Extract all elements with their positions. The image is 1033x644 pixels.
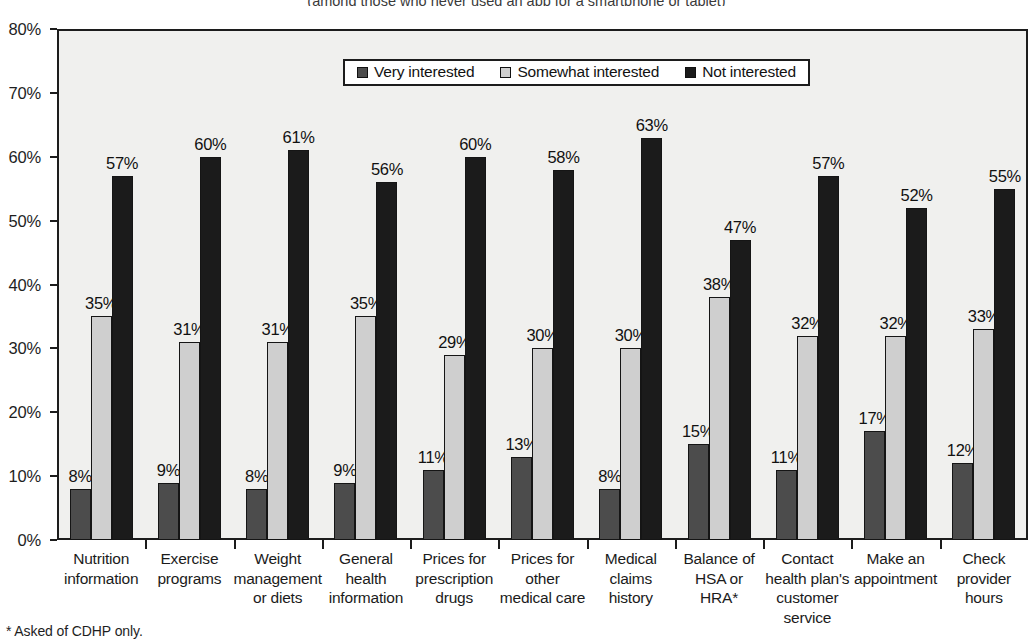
bar[interactable] xyxy=(776,470,797,540)
y-axis-tickmark xyxy=(50,28,57,30)
bar-value-label: 58% xyxy=(540,148,588,167)
legend-item-very-interested[interactable]: Very interested xyxy=(357,63,474,81)
y-axis-tickmark xyxy=(50,92,57,94)
x-axis-category-label: Make anappointment xyxy=(847,549,943,588)
bar[interactable] xyxy=(112,176,133,540)
x-axis-category-label: Weightmanagementor diets xyxy=(230,549,326,608)
bar-value-label: 63% xyxy=(628,116,676,135)
x-axis-label-line: Prices for xyxy=(406,549,502,569)
bar[interactable] xyxy=(288,150,309,540)
x-axis-label-line: history xyxy=(583,588,679,608)
x-axis-tickmark xyxy=(675,540,677,549)
bar[interactable] xyxy=(423,470,444,540)
x-axis-label-line: Weight xyxy=(230,549,326,569)
bar[interactable] xyxy=(709,297,730,540)
x-axis-label-line: Balance of xyxy=(671,549,767,569)
bar[interactable] xyxy=(599,489,620,540)
bar-value-label: 55% xyxy=(981,167,1029,186)
x-axis-tickmark xyxy=(410,540,412,549)
chart-legend: Very interested Somewhat interested Not … xyxy=(343,59,810,86)
y-axis-tickmark xyxy=(50,411,57,413)
bar-value-label: 56% xyxy=(363,160,411,179)
x-axis-label-line: health plan's xyxy=(759,569,855,589)
bar[interactable] xyxy=(532,348,553,540)
bar[interactable] xyxy=(688,444,709,540)
x-axis-tickmark xyxy=(587,540,589,549)
bar-value-label: 60% xyxy=(186,135,234,154)
y-axis-tickmark xyxy=(50,347,57,349)
bar[interactable] xyxy=(818,176,839,540)
bar[interactable] xyxy=(334,483,355,540)
x-axis-label-line: Check xyxy=(936,549,1032,569)
x-axis-label-line: customer xyxy=(759,588,855,608)
bar[interactable] xyxy=(553,170,574,540)
bar-group: 8%31%61% xyxy=(246,29,309,540)
bar[interactable] xyxy=(864,431,885,540)
x-axis-label-line: other xyxy=(494,569,590,589)
bar[interactable] xyxy=(179,342,200,540)
bar[interactable] xyxy=(885,336,906,540)
bar[interactable] xyxy=(730,240,751,540)
bar[interactable] xyxy=(994,189,1015,540)
bar[interactable] xyxy=(200,157,221,540)
chart-subtitle: (among those who never used an app for a… xyxy=(0,0,1033,6)
x-axis-category-label: Balance ofHSA orHRA* xyxy=(671,549,767,608)
y-axis-tick-label: 20% xyxy=(9,403,41,422)
y-axis-tick-label: 10% xyxy=(9,467,41,486)
x-axis-tickmark xyxy=(763,540,765,549)
x-axis-label-line: Make an xyxy=(847,549,943,569)
legend-label: Somewhat interested xyxy=(517,63,659,81)
x-axis-category-label: Generalhealthinformation xyxy=(318,549,414,608)
x-axis-label-line: Medical xyxy=(583,549,679,569)
x-axis-label-line: General xyxy=(318,549,414,569)
bar-group: 8%35%57% xyxy=(70,29,133,540)
bar-group: 11%32%57% xyxy=(776,29,839,540)
x-axis-label-line: Contact xyxy=(759,549,855,569)
bar[interactable] xyxy=(158,483,179,540)
legend-swatch-icon xyxy=(500,67,511,78)
legend-item-not-interested[interactable]: Not interested xyxy=(685,63,796,81)
x-axis-tickmark xyxy=(940,540,942,549)
x-axis-label-line: information xyxy=(318,588,414,608)
y-axis-tick-label: 0% xyxy=(18,531,41,550)
bar[interactable] xyxy=(952,463,973,540)
bar-group: 8%30%63% xyxy=(599,29,662,540)
y-axis: 0%10%20%30%40%50%60%70%80% xyxy=(0,29,50,540)
legend-label: Very interested xyxy=(374,63,474,81)
bar[interactable] xyxy=(355,316,376,540)
x-axis-label-line: claims xyxy=(583,569,679,589)
x-axis-category-label: Prices forothermedical care xyxy=(494,549,590,608)
bar[interactable] xyxy=(267,342,288,540)
bar[interactable] xyxy=(444,355,465,540)
x-axis-label-line: or diets xyxy=(230,588,326,608)
x-axis-category-label: Checkproviderhours xyxy=(936,549,1032,608)
bar-group: 13%30%58% xyxy=(511,29,574,540)
bar[interactable] xyxy=(465,157,486,540)
y-axis-tick-label: 30% xyxy=(9,339,41,358)
bar[interactable] xyxy=(376,182,397,540)
y-axis-tick-label: 60% xyxy=(9,147,41,166)
x-axis: NutritioninformationExerciseprogramsWeig… xyxy=(57,549,1028,639)
bar[interactable] xyxy=(70,489,91,540)
legend-item-somewhat-interested[interactable]: Somewhat interested xyxy=(500,63,659,81)
y-axis-tickmark xyxy=(50,220,57,222)
x-axis-label-line: drugs xyxy=(406,588,502,608)
x-axis-category-label: Prices forprescriptiondrugs xyxy=(406,549,502,608)
x-axis-category-label: Exerciseprograms xyxy=(141,549,237,588)
x-axis-tickmark xyxy=(498,540,500,549)
legend-swatch-icon xyxy=(685,67,696,78)
y-axis-tick-label: 80% xyxy=(9,20,41,39)
bar[interactable] xyxy=(973,329,994,540)
bar-group: 9%31%60% xyxy=(158,29,221,540)
legend-swatch-icon xyxy=(357,67,368,78)
bar[interactable] xyxy=(797,336,818,540)
x-axis-label-line: Prices for xyxy=(494,549,590,569)
bar-group: 9%35%56% xyxy=(334,29,397,540)
bar[interactable] xyxy=(906,208,927,540)
bar[interactable] xyxy=(246,489,267,540)
bar[interactable] xyxy=(511,457,532,540)
bar[interactable] xyxy=(91,316,112,540)
x-axis-label-line: Nutrition xyxy=(53,549,149,569)
bar[interactable] xyxy=(641,138,662,540)
bar[interactable] xyxy=(620,348,641,540)
